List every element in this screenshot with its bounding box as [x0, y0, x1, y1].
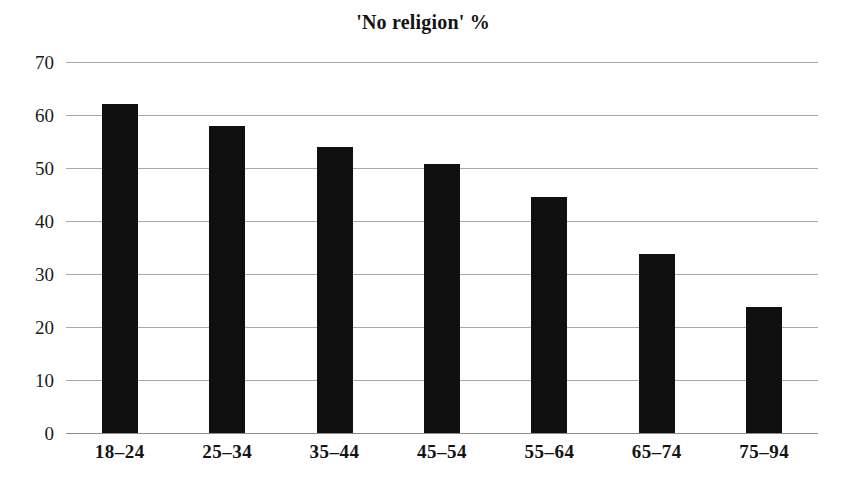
bar — [424, 164, 460, 433]
x-axis-tick-label: 75–94 — [704, 441, 824, 463]
bar — [746, 307, 782, 433]
y-axis-tick-label: 20 — [35, 318, 54, 337]
y-axis: 706050403020100 — [0, 0, 66, 485]
bar — [102, 104, 138, 433]
x-axis-tick-label: 55–64 — [489, 441, 609, 463]
y-axis-tick-label: 0 — [45, 424, 55, 443]
chart-figure: 'No religion' % 706050403020100 18–2425–… — [0, 0, 846, 485]
y-axis-tick-label: 70 — [35, 53, 54, 72]
y-axis-tick-label: 50 — [35, 159, 54, 178]
bar — [317, 147, 353, 433]
y-axis-tick-label: 10 — [35, 371, 54, 390]
x-axis: 18–2425–3435–4445–5455–6465–7475–94 — [66, 441, 818, 481]
y-axis-tick-label: 60 — [35, 106, 54, 125]
bar — [531, 197, 567, 433]
x-axis-tick-label: 25–34 — [167, 441, 287, 463]
y-axis-tick-label: 30 — [35, 265, 54, 284]
bar — [639, 254, 675, 433]
x-axis-tick-label: 45–54 — [382, 441, 502, 463]
bar — [209, 126, 245, 433]
x-axis-tick-label: 65–74 — [597, 441, 717, 463]
bar-series — [66, 0, 818, 485]
x-axis-tick-label: 18–24 — [60, 441, 180, 463]
x-axis-tick-label: 35–44 — [275, 441, 395, 463]
y-axis-tick-label: 40 — [35, 212, 54, 231]
